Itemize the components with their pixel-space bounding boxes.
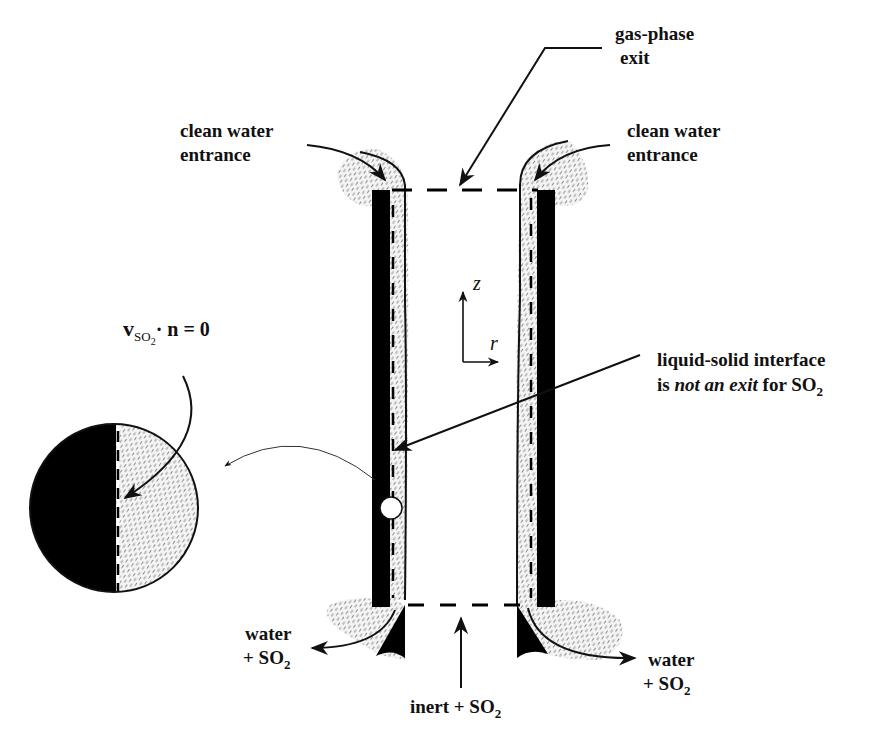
- equation-no-flux: vSO2· n = 0: [123, 316, 210, 347]
- label-water-left-2: + SO2: [243, 647, 290, 672]
- wall-right: [537, 190, 555, 607]
- label-inlet: inert + SO2: [410, 696, 501, 721]
- label-water-left-1: water: [245, 623, 292, 644]
- arrow-magnify: [225, 446, 375, 480]
- label-interface-2: is not an exit for SO2: [657, 374, 823, 399]
- label-clean-right-2: entrance: [627, 144, 698, 165]
- label-water-right-2: + SO2: [643, 673, 690, 698]
- magnifier-spot: [380, 497, 402, 519]
- label-clean-right-1: clean water: [627, 120, 721, 141]
- label-clean-left-1: clean water: [180, 120, 274, 141]
- label-interface-1: liquid-solid interface: [657, 349, 825, 370]
- wall-left: [372, 190, 390, 607]
- axis-r-label: r: [490, 332, 498, 354]
- magnified-detail: [30, 410, 216, 610]
- axis-z-label: z: [472, 272, 481, 294]
- label-clean-left-2: entrance: [180, 144, 251, 165]
- diagram-canvas: z r gas-phase exit clean water entrance …: [0, 0, 874, 745]
- label-water-right-1: water: [648, 649, 695, 670]
- label-gas-exit-1: gas-phase: [615, 23, 694, 44]
- label-gas-exit-2: exit: [620, 47, 650, 68]
